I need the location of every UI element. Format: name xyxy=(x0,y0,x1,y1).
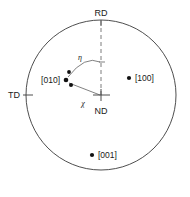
nd-axis-label: ND xyxy=(95,106,108,116)
pole-label-100: [100] xyxy=(135,73,154,83)
eta-angle-label: η xyxy=(78,53,82,62)
rd-axis-label: RD xyxy=(95,8,108,18)
pole-label-001: [001] xyxy=(98,150,117,160)
pole-figure-container: RD TD ND η χ [010] [100] [001] xyxy=(0,0,190,197)
cluster-dot-lower xyxy=(69,83,73,87)
pole-figure-svg: RD TD ND η χ [010] [100] [001] xyxy=(0,0,190,197)
chi-angle-label: χ xyxy=(80,99,85,108)
cluster-dot-center xyxy=(64,78,69,83)
pole-label-010: [010] xyxy=(41,75,60,85)
cluster-dot-upper xyxy=(67,70,71,74)
td-axis-label: TD xyxy=(8,90,20,100)
pole-dot-001 xyxy=(90,153,94,157)
pole-dot-100 xyxy=(127,76,131,80)
